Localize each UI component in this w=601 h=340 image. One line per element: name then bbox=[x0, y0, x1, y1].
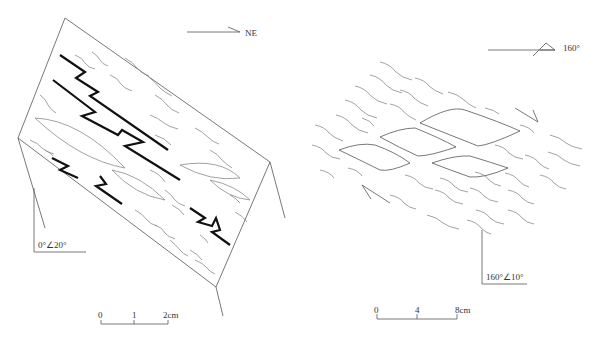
scale-tick-1-right: 4 bbox=[415, 305, 420, 315]
bottom-edge-extension bbox=[216, 287, 223, 316]
shear-arrow-bottom bbox=[362, 185, 390, 203]
left-block-diagram: 0°∠20° NE 0 1 2cm bbox=[18, 18, 285, 324]
en-echelon-vein-4 bbox=[190, 208, 230, 245]
attitude-label: 0°∠20° bbox=[38, 240, 67, 250]
lens-4 bbox=[210, 180, 250, 200]
scale-tick-0-right: 0 bbox=[374, 305, 379, 315]
en-echelon-vein-1 bbox=[60, 55, 168, 150]
right-edge-extension bbox=[270, 162, 285, 218]
strike-label: 160° bbox=[563, 43, 581, 53]
right-plan-diagram: 160° bbox=[312, 43, 582, 319]
lozenge-1 bbox=[420, 109, 520, 146]
en-echelon-vein-2 bbox=[53, 80, 180, 180]
foliation-marks-right bbox=[312, 62, 582, 234]
diagram-canvas: 0°∠20° NE 0 1 2cm 160° bbox=[0, 0, 601, 340]
shear-arrow-top bbox=[515, 108, 538, 122]
scale-tick-1: 1 bbox=[132, 310, 137, 320]
scale-tick-2-right: 8cm bbox=[455, 305, 471, 315]
lozenge-4 bbox=[432, 156, 508, 177]
lens-3 bbox=[180, 163, 240, 179]
scale-tick-0: 0 bbox=[98, 310, 103, 320]
scale-bar-left bbox=[101, 320, 168, 324]
left-edge-extension bbox=[18, 138, 45, 228]
lozenge-3 bbox=[339, 144, 410, 170]
north-arrow-label: NE bbox=[245, 28, 257, 38]
attitude-label-right: 160°∠10° bbox=[486, 272, 524, 282]
lens-2 bbox=[112, 170, 165, 200]
scale-tick-2: 2cm bbox=[163, 310, 179, 320]
north-arrow bbox=[187, 27, 240, 32]
strike-symbol bbox=[488, 43, 555, 56]
